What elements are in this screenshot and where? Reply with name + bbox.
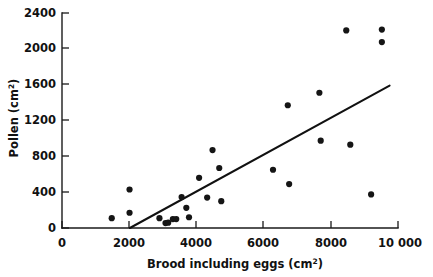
data-point <box>209 147 215 153</box>
y-tick-label: 2000 <box>24 41 56 55</box>
data-point <box>183 205 189 211</box>
data-point <box>109 215 115 221</box>
y-tick-label: 0 <box>48 221 56 235</box>
data-point <box>126 186 132 192</box>
x-axis-title-main: Brood including eggs (cm <box>147 257 312 271</box>
y-tick-labels: 2400 2000 1600 1200 800 400 0 <box>24 6 56 235</box>
x-axis-title-tail: ) <box>318 257 323 271</box>
data-point <box>270 167 276 173</box>
data-point <box>179 194 185 200</box>
data-point <box>216 165 222 171</box>
x-axis-ticks <box>62 221 398 228</box>
data-point <box>347 142 353 148</box>
data-point <box>368 191 374 197</box>
data-point <box>286 181 292 187</box>
data-point <box>126 210 132 216</box>
data-point <box>343 27 349 33</box>
regression-line <box>130 86 390 228</box>
x-tick-label: 2000 <box>113 236 145 250</box>
data-point <box>379 26 385 32</box>
y-axis-title: Pollen (cm2) <box>7 79 21 158</box>
y-tick-label: 1200 <box>24 113 56 127</box>
y-tick-label: 400 <box>32 185 56 199</box>
x-tick-label: 10 000 <box>378 236 422 250</box>
data-point <box>196 175 202 181</box>
data-points-group <box>109 26 385 226</box>
y-tick-label: 2400 <box>24 6 56 20</box>
data-point <box>285 102 291 108</box>
y-axis-title-tail: ) <box>7 79 21 84</box>
data-point <box>186 214 192 220</box>
x-tick-labels: 0 2000 4000 6000 8000 10 000 <box>58 236 422 250</box>
data-point <box>156 215 162 221</box>
data-point <box>379 39 385 45</box>
x-tick-label: 6000 <box>247 236 279 250</box>
x-tick-label: 0 <box>58 236 66 250</box>
x-tick-label: 4000 <box>180 236 212 250</box>
data-point <box>204 194 210 200</box>
scatter-plot-figure: 2400 2000 1600 1200 800 400 0 0 2000 400… <box>0 0 433 277</box>
x-tick-label: 8000 <box>315 236 347 250</box>
y-axis-ticks <box>62 13 69 228</box>
x-axis-title: Brood including eggs (cm2) <box>147 257 323 271</box>
data-point <box>316 90 322 96</box>
data-point <box>318 138 324 144</box>
y-axis-title-main: Pollen (cm <box>7 89 21 157</box>
plot-canvas: 2400 2000 1600 1200 800 400 0 0 2000 400… <box>0 0 433 277</box>
data-point <box>173 216 179 222</box>
data-point <box>218 198 224 204</box>
y-tick-label: 800 <box>32 149 56 163</box>
y-tick-label: 1600 <box>24 77 56 91</box>
